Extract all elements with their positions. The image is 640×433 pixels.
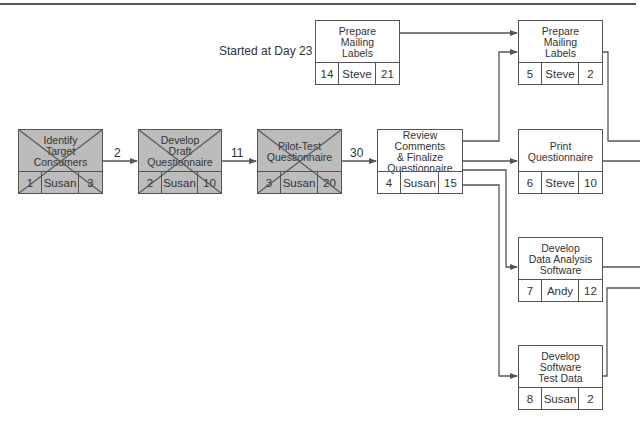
task-node-print-questionnaire[interactable]: Print Questionnaire 6 Steve 10 xyxy=(518,129,603,194)
task-owner: Andy xyxy=(542,280,579,301)
task-node-develop-draft-questionnaire[interactable]: Develop Draft Questionnaire 2 Susan 10 xyxy=(138,129,222,194)
edge-5-out xyxy=(602,52,640,141)
task-node-review-comments-finalize[interactable]: Review Comments & Finalize Questionnaire… xyxy=(377,129,463,194)
task-title: Develop Draft Questionnaire xyxy=(139,130,221,173)
edge-4-5 xyxy=(462,52,517,141)
task-node-prepare-mailing-labels-5[interactable]: Prepare Mailing Labels 5 Steve 2 xyxy=(518,20,603,85)
task-title: Develop Software Test Data xyxy=(519,346,602,389)
task-id: 1 xyxy=(19,172,42,193)
task-owner: Steve xyxy=(542,63,579,84)
task-duration: 21 xyxy=(376,63,399,84)
task-id: 3 xyxy=(258,172,281,193)
task-node-identify-target-consumers[interactable]: Identify Target Consumers 1 Susan 3 xyxy=(18,129,103,194)
start-day-annotation: Started at Day 23 xyxy=(219,44,312,58)
task-title: Identify Target Consumers xyxy=(19,130,102,173)
task-duration: 2 xyxy=(579,388,602,409)
task-owner: Susan xyxy=(401,172,439,193)
task-node-prepare-mailing-labels-14[interactable]: Prepare Mailing Labels 14 Steve 21 xyxy=(315,20,400,85)
task-title: Develop Data Analysis Software xyxy=(519,238,602,281)
task-title: Review Comments & Finalize Questionnaire xyxy=(378,130,462,173)
task-id: 4 xyxy=(378,172,401,193)
task-duration: 15 xyxy=(439,172,462,193)
task-title: Print Questionnaire xyxy=(519,130,602,173)
edge-label-1-2: 2 xyxy=(114,146,121,160)
task-owner: Susan xyxy=(42,172,79,193)
task-title: Pilot-Test Questionnaire xyxy=(258,130,341,173)
task-duration: 10 xyxy=(198,172,221,193)
task-owner: Susan xyxy=(162,172,198,193)
task-id: 14 xyxy=(316,63,339,84)
task-id: 2 xyxy=(139,172,162,193)
task-id: 8 xyxy=(519,388,542,409)
edge-8-out xyxy=(602,288,640,376)
task-duration: 12 xyxy=(579,280,602,301)
task-duration: 3 xyxy=(79,172,102,193)
task-owner: Steve xyxy=(542,172,579,193)
task-id: 5 xyxy=(519,63,542,84)
task-owner: Susan xyxy=(542,388,579,409)
task-id: 7 xyxy=(519,280,542,301)
edge-label-2-3: 11 xyxy=(231,146,243,160)
task-node-develop-software-test-data[interactable]: Develop Software Test Data 8 Susan 2 xyxy=(518,345,603,410)
edge-4-8 xyxy=(462,185,517,376)
task-node-pilot-test-questionnaire[interactable]: Pilot-Test Questionnaire 3 Susan 20 xyxy=(257,129,342,194)
task-duration: 10 xyxy=(579,172,602,193)
task-owner: Steve xyxy=(339,63,376,84)
task-id: 6 xyxy=(519,172,542,193)
task-node-develop-data-analysis-software[interactable]: Develop Data Analysis Software 7 Andy 12 xyxy=(518,237,603,302)
edge-label-3-4: 30 xyxy=(350,146,363,160)
task-duration: 20 xyxy=(318,172,341,193)
task-owner: Susan xyxy=(281,172,318,193)
task-duration: 2 xyxy=(579,63,602,84)
task-title: Prepare Mailing Labels xyxy=(519,21,602,64)
task-title: Prepare Mailing Labels xyxy=(316,21,399,64)
